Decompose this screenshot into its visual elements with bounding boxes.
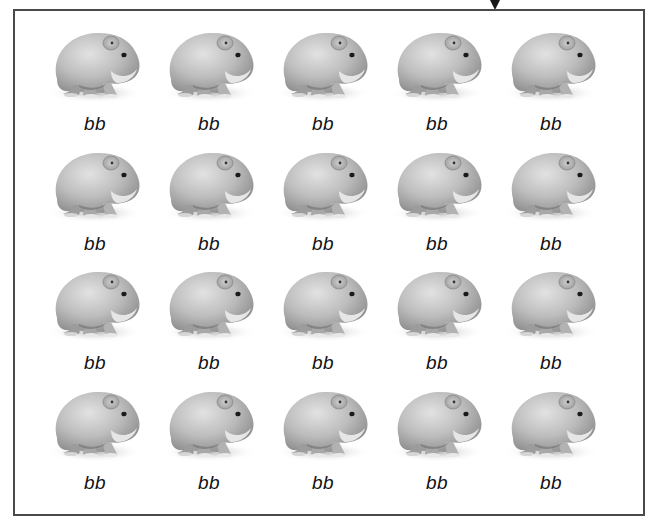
grid-cell: bb <box>499 254 613 374</box>
genotype-label: bb <box>499 352 603 374</box>
guinea-pig-image <box>159 27 259 105</box>
grid-cell: bb <box>271 374 385 494</box>
grid-cell: bb <box>157 254 271 374</box>
genotype-label: bb <box>385 472 489 494</box>
guinea-pig-image <box>387 266 487 344</box>
genotype-label: bb <box>43 352 147 374</box>
grid-cell: bb <box>499 135 613 255</box>
guinea-pig-image <box>273 27 373 105</box>
genotype-label: bb <box>271 113 375 135</box>
grid-cell: bb <box>157 135 271 255</box>
guinea-pig-image <box>501 27 601 105</box>
genotype-label: bb <box>499 472 603 494</box>
grid-cell: bb <box>385 135 499 255</box>
genotype-label: bb <box>271 233 375 255</box>
guinea-pig-image <box>387 386 487 464</box>
guinea-pig-image <box>159 266 259 344</box>
genotype-label: bb <box>271 352 375 374</box>
guinea-pig-image <box>273 147 373 225</box>
guinea-pig-image <box>159 386 259 464</box>
guinea-pig-grid-frame: bb bb bb bb bb bb bb bb bb bb bb <box>13 9 645 516</box>
genotype-label: bb <box>385 352 489 374</box>
genotype-label: bb <box>157 352 261 374</box>
guinea-pig-image <box>501 266 601 344</box>
grid-cell: bb <box>43 254 157 374</box>
guinea-pig-image <box>273 386 373 464</box>
guinea-pig-image <box>45 386 145 464</box>
guinea-pig-image <box>501 147 601 225</box>
grid-cell: bb <box>499 374 613 494</box>
grid-cell: bb <box>43 374 157 494</box>
guinea-pig-image <box>159 147 259 225</box>
genotype-label: bb <box>43 472 147 494</box>
genotype-label: bb <box>157 472 261 494</box>
guinea-pig-image <box>387 147 487 225</box>
grid-cell: bb <box>385 254 499 374</box>
grid-cell: bb <box>157 15 271 135</box>
genotype-label: bb <box>43 113 147 135</box>
genotype-label: bb <box>499 233 603 255</box>
grid-cell: bb <box>157 374 271 494</box>
grid-cell: bb <box>271 254 385 374</box>
grid-cell: bb <box>43 135 157 255</box>
grid-cell: bb <box>385 374 499 494</box>
guinea-pig-image <box>45 147 145 225</box>
guinea-pig-image <box>273 266 373 344</box>
genotype-label: bb <box>271 472 375 494</box>
grid-cell: bb <box>271 15 385 135</box>
genotype-label: bb <box>385 233 489 255</box>
guinea-pig-image <box>501 386 601 464</box>
genotype-label: bb <box>499 113 603 135</box>
grid-cell: bb <box>499 15 613 135</box>
grid-cell: bb <box>43 15 157 135</box>
genotype-label: bb <box>385 113 489 135</box>
guinea-pig-image <box>45 27 145 105</box>
genotype-label: bb <box>157 233 261 255</box>
genotype-label: bb <box>43 233 147 255</box>
guinea-pig-image <box>387 27 487 105</box>
grid-cell: bb <box>385 15 499 135</box>
guinea-pig-image <box>45 266 145 344</box>
grid-cell: bb <box>271 135 385 255</box>
genotype-label: bb <box>157 113 261 135</box>
